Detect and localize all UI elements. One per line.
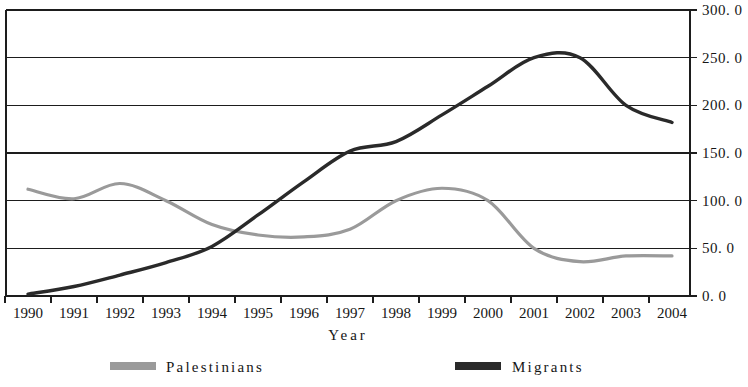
x-tick-label: 1999: [427, 305, 457, 321]
x-tick-label: 1998: [381, 305, 411, 321]
y-tick-label: 300. 0: [702, 2, 743, 18]
chart-legend: PalestiniansMigrants: [110, 359, 584, 375]
y-tick-label: 200. 0: [702, 97, 743, 113]
x-tick-label: 1992: [105, 305, 135, 321]
y-tick-label: 50. 0: [702, 240, 735, 256]
legend-label: Migrants: [512, 359, 584, 375]
legend-swatch: [110, 362, 156, 370]
data-series-lines: [28, 53, 672, 294]
x-tick-label: 2004: [657, 305, 688, 321]
y-axis-tick-labels: 0. 050. 0100. 0150. 0200. 0250. 0300. 0: [702, 2, 743, 304]
x-tick-label: 1990: [13, 305, 43, 321]
x-tick-label: 1994: [197, 305, 228, 321]
y-tick-label: 0. 0: [702, 288, 727, 304]
series-line-palestinians: [28, 184, 672, 262]
x-tick-label: 1997: [335, 305, 366, 321]
x-axis-tick-labels: 1990199119921993199419951996199719981999…: [13, 305, 688, 321]
y-axis-tick-marks: [690, 10, 697, 296]
line-chart-figure: 0. 050. 0100. 0150. 0200. 0250. 0300. 0 …: [0, 0, 748, 387]
y-tick-label: 250. 0: [702, 50, 743, 66]
x-tick-label: 1996: [289, 305, 320, 321]
x-tick-label: 2001: [519, 305, 549, 321]
y-tick-label: 150. 0: [702, 145, 743, 161]
x-tick-label: 2000: [473, 305, 503, 321]
series-line-migrants: [28, 53, 672, 294]
x-axis-tick-marks: [5, 296, 649, 303]
x-tick-label: 1991: [59, 305, 89, 321]
x-tick-label: 1993: [151, 305, 181, 321]
x-tick-label: 1995: [243, 305, 273, 321]
x-tick-label: 2002: [565, 305, 595, 321]
x-tick-label: 2003: [611, 305, 641, 321]
y-tick-label: 100. 0: [702, 193, 743, 209]
legend-swatch: [455, 362, 501, 370]
chart-canvas: 0. 050. 0100. 0150. 0200. 0250. 0300. 0 …: [0, 0, 748, 387]
legend-label: Palestinians: [166, 359, 264, 375]
x-axis-title: Year: [328, 327, 368, 343]
horizontal-gridlines: [6, 10, 690, 248]
